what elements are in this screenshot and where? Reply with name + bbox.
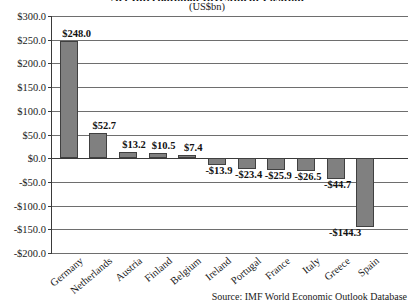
- y-axis-tick: [48, 158, 52, 159]
- bar: [297, 158, 315, 171]
- y-axis-label: -$50.0: [19, 176, 46, 187]
- source-note: Source: IMF World Economic Outlook Datab…: [212, 291, 407, 302]
- bar-value-label: -$13.9: [205, 165, 232, 176]
- bar-value-label: $248.0: [62, 28, 91, 39]
- y-axis-tick: [48, 16, 52, 17]
- bar: [327, 158, 345, 179]
- x-axis-category-label: Austria: [113, 255, 144, 283]
- x-axis-category-label: Portugal: [228, 255, 262, 286]
- bar: [119, 152, 137, 158]
- y-axis-tick: [48, 63, 52, 64]
- bar-value-label: $13.2: [122, 139, 146, 150]
- chart-subtitle: (US$bn): [0, 1, 414, 12]
- gridline: [52, 87, 408, 88]
- zero-line: [52, 158, 408, 159]
- bar: [356, 158, 374, 226]
- bar-value-label: -$144.3: [329, 227, 361, 238]
- bar: [208, 158, 226, 165]
- bar: [149, 153, 167, 158]
- y-axis-label: -$100.0: [14, 200, 46, 211]
- bar: [60, 41, 78, 159]
- bar: [267, 158, 285, 170]
- gridline: [52, 40, 408, 41]
- y-axis-label: $0.0: [28, 153, 46, 164]
- gridline: [52, 63, 408, 64]
- y-axis-tick: [48, 229, 52, 230]
- gridline: [52, 253, 408, 254]
- y-axis-label: $150.0: [17, 82, 46, 93]
- gridline: [52, 182, 408, 183]
- bar-value-label: -$26.5: [294, 171, 321, 182]
- y-axis-label: $100.0: [17, 105, 46, 116]
- y-axis-label: $300.0: [17, 11, 46, 22]
- y-axis-tick: [48, 253, 52, 254]
- y-axis-tick: [48, 87, 52, 88]
- x-axis-category-label: Belgium: [169, 255, 204, 287]
- y-axis-tick: [48, 40, 52, 41]
- bar-value-label: -$25.9: [265, 170, 292, 181]
- y-axis-label: $250.0: [17, 34, 46, 45]
- bar: [89, 133, 107, 158]
- bar-value-label: $52.7: [92, 120, 116, 131]
- x-axis-category-label: Spain: [356, 255, 381, 279]
- y-axis-label: -$200.0: [14, 248, 46, 259]
- chart-container: Net International Investment Position (U…: [0, 0, 414, 303]
- gridline: [52, 111, 408, 112]
- bar-value-label: $10.5: [152, 140, 176, 151]
- x-axis-category-label: Italy: [300, 255, 322, 276]
- y-axis-label: $50.0: [22, 129, 46, 140]
- y-axis-tick: [48, 111, 52, 112]
- y-axis-tick: [48, 182, 52, 183]
- y-axis-tick: [48, 135, 52, 136]
- y-axis-tick: [48, 206, 52, 207]
- bar-value-label: $7.4: [184, 142, 202, 153]
- y-axis-label: -$150.0: [14, 224, 46, 235]
- gridline: [52, 16, 408, 17]
- bar-value-label: -$44.7: [324, 179, 351, 190]
- y-axis-label: $200.0: [17, 58, 46, 69]
- gridline: [52, 206, 408, 207]
- x-axis-category-label: Greece: [322, 255, 352, 283]
- bar: [238, 158, 256, 169]
- bar-value-label: -$23.4: [235, 169, 262, 180]
- x-axis-category-label: France: [263, 255, 292, 282]
- bar: [178, 155, 196, 159]
- plot-area: $300.0$250.0$200.0$150.0$100.0$50.0$0.0-…: [51, 16, 407, 253]
